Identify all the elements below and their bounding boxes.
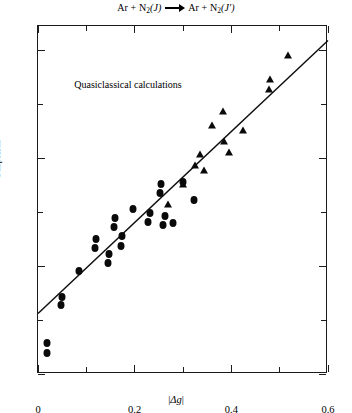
- y-tick-major-right: [319, 266, 326, 267]
- data-point-circle: [145, 218, 152, 226]
- plot-annotation: Quasiclassical calculations: [74, 79, 181, 90]
- title-plus-1: +: [131, 2, 137, 13]
- x-tick-major: [231, 365, 232, 372]
- data-point-circle: [58, 293, 65, 301]
- data-point-circle: [169, 219, 176, 227]
- x-tick-major: [134, 365, 135, 372]
- x-tick-major: [328, 365, 329, 372]
- data-point-circle: [118, 242, 125, 250]
- title-reactant-atom: Ar: [117, 2, 128, 13]
- x-tick-minor-top: [279, 26, 280, 31]
- data-point-circle: [44, 339, 51, 347]
- data-point-circle: [43, 349, 50, 357]
- data-point-circle: [92, 244, 99, 252]
- y-tick-minor-right: [321, 212, 326, 213]
- y-tick-minor: [38, 104, 43, 105]
- title-reactant-state: (J): [150, 2, 161, 13]
- x-tick-major-top: [134, 26, 135, 33]
- y-tick-minor: [38, 212, 43, 213]
- x-tick-minor: [279, 367, 280, 372]
- x-tick-major-top: [328, 26, 329, 33]
- data-point-triangle: [164, 200, 172, 207]
- data-point-circle: [190, 196, 197, 204]
- x-tick-label: 0.4: [211, 404, 251, 413]
- data-point-triangle: [200, 167, 208, 174]
- y-tick-major-right: [319, 50, 326, 51]
- x-tick-minor: [86, 367, 87, 372]
- data-point-circle: [57, 301, 64, 309]
- data-point-circle: [129, 205, 136, 213]
- y-tick-major: [38, 158, 45, 159]
- y-axis-title: Surprisal: [0, 140, 2, 178]
- title-product-atom: Ar: [188, 2, 199, 13]
- data-point-triangle: [219, 107, 227, 114]
- x-tick-minor-top: [183, 26, 184, 31]
- data-point-circle: [146, 209, 153, 217]
- data-point-circle: [161, 212, 168, 220]
- arrow-right-icon: [164, 3, 186, 12]
- data-point-triangle: [196, 151, 204, 158]
- data-point-triangle: [179, 181, 187, 188]
- title-plus-2: +: [202, 2, 208, 13]
- data-point-triangle: [265, 86, 273, 93]
- data-point-circle: [159, 221, 166, 229]
- data-point-triangle: [191, 161, 199, 168]
- data-point-triangle: [225, 148, 233, 155]
- y-tick-major-right: [319, 374, 326, 375]
- data-point-triangle: [208, 121, 216, 128]
- data-point-triangle: [239, 127, 247, 134]
- title-product-state: (J′): [221, 2, 235, 13]
- x-tick-label: 0.6: [308, 404, 348, 413]
- data-point-circle: [76, 267, 83, 275]
- data-point-circle: [93, 235, 100, 243]
- chart-title: Ar + N2(J) Ar + N2(J′): [0, 2, 352, 15]
- data-point-circle: [106, 250, 113, 258]
- data-point-circle: [110, 223, 117, 231]
- figure-container: Ar + N2(J) Ar + N2(J′) 420−200.20.40.6Qu…: [0, 0, 352, 413]
- x-axis-title: |Δg|: [0, 394, 352, 405]
- y-tick-major: [38, 374, 45, 375]
- data-point-circle: [105, 259, 112, 267]
- y-tick-major: [38, 50, 45, 51]
- x-tick-label: 0.2: [115, 404, 155, 413]
- data-point-circle: [111, 214, 118, 222]
- data-point-triangle: [284, 51, 292, 58]
- x-tick-minor-top: [86, 26, 87, 31]
- x-tick-major-top: [38, 26, 39, 33]
- y-tick-minor-right: [321, 104, 326, 105]
- x-tick-label: 0: [18, 404, 58, 413]
- data-point-circle: [156, 189, 163, 197]
- plot-area: 420−200.20.40.6Quasiclassical calculatio…: [37, 25, 327, 373]
- data-point-circle: [157, 180, 164, 188]
- data-point-circle: [119, 232, 126, 240]
- data-point-triangle: [266, 76, 274, 83]
- y-tick-minor: [38, 320, 43, 321]
- x-tick-minor: [183, 367, 184, 372]
- y-tick-major-right: [319, 158, 326, 159]
- fit-line-overlay: [38, 26, 328, 374]
- x-tick-major: [38, 365, 39, 372]
- data-point-triangle: [220, 137, 228, 144]
- x-tick-major-top: [231, 26, 232, 33]
- y-tick-major: [38, 266, 45, 267]
- y-tick-minor-right: [321, 320, 326, 321]
